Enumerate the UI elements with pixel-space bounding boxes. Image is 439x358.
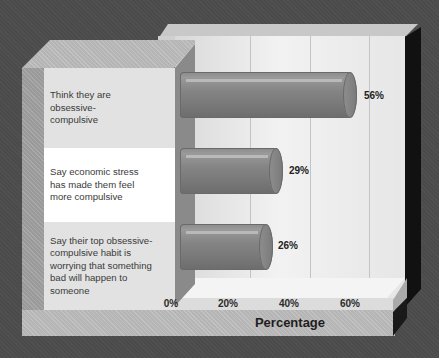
back-wall-top — [160, 24, 418, 36]
category-label-2: Say economic stress has made them feel m… — [44, 148, 175, 222]
bar-cap — [343, 72, 357, 118]
x-tick-0: 0% — [164, 298, 178, 309]
bar-highlight — [186, 155, 268, 158]
value-label-2: 29% — [289, 165, 309, 176]
category-label-text: Say economic stress has made them feel m… — [50, 166, 150, 204]
x-tick-40: 40% — [279, 298, 299, 309]
x-axis-title: Percentage — [210, 315, 370, 330]
bar-2 — [180, 148, 276, 194]
gridline-60 — [369, 36, 370, 298]
category-label-3: Say their top obsessive-compulsive habit… — [44, 222, 175, 310]
category-label-text: Think they are obsessive-compulsive — [50, 89, 140, 127]
bar-3 — [180, 224, 266, 270]
value-label-1: 56% — [364, 90, 384, 101]
bar-highlight — [186, 79, 342, 82]
bar-cap — [259, 224, 273, 270]
category-label-text: Say their top obsessive-compulsive habit… — [50, 235, 162, 298]
bar-highlight — [186, 231, 258, 234]
x-tick-60: 60% — [340, 298, 360, 309]
category-label-1: Think they are obsessive-compulsive — [44, 68, 175, 148]
bar-1 — [180, 72, 350, 118]
chart-floor — [175, 278, 405, 300]
label-panel-side — [22, 68, 44, 310]
label-panel-top — [22, 40, 195, 68]
value-label-3: 26% — [278, 240, 298, 251]
right-side-wall — [405, 27, 421, 307]
x-tick-20: 20% — [218, 298, 238, 309]
bar-cap — [269, 148, 283, 194]
